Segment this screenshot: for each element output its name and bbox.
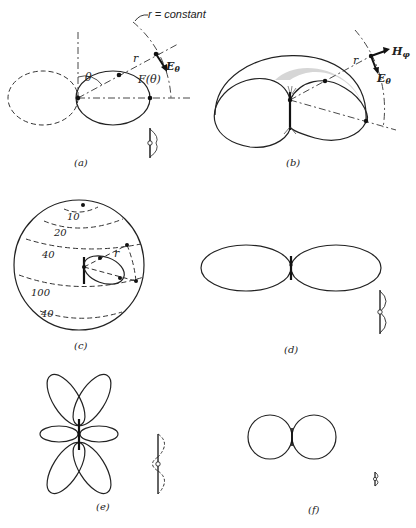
feed-dot-lower (289, 271, 292, 274)
contour-label-40-lower: 40 (40, 308, 54, 319)
pattern-point (323, 79, 327, 83)
origin-dot (76, 96, 81, 101)
contour-label-10: 10 (67, 211, 80, 222)
panel-a: r = constant r θ F(θ) Eθ (a) (8, 8, 207, 168)
petal-left (40, 426, 78, 442)
petal-lower-left (40, 437, 93, 500)
contour-label-20: 20 (53, 227, 67, 238)
h-phi-label: Hφ (391, 45, 410, 59)
antenna-radiation-pattern-figure: r = constant r θ F(θ) Eθ (a) (0, 0, 416, 528)
origin-dot (288, 98, 292, 102)
inner-lobe (80, 251, 128, 290)
contour-label-100: 100 (31, 287, 51, 298)
contour-40-upper (26, 239, 141, 249)
radius-line (78, 44, 178, 98)
r-label: r (353, 54, 359, 67)
petal-lower-right (66, 437, 119, 500)
pattern-point (117, 73, 122, 78)
sphere-point-lower (134, 279, 138, 283)
pattern-point-upper (98, 256, 102, 260)
shading (275, 68, 365, 115)
panel-c: r 10 20 40 100 40 (c) (14, 200, 144, 351)
petal-upper-right (66, 369, 119, 432)
meridian-arc (127, 245, 136, 281)
caption-f: (f) (308, 504, 320, 515)
contour-100 (19, 275, 144, 287)
feed-dot-upper (289, 263, 292, 266)
caption-d: (d) (284, 344, 298, 355)
e-theta-label: Eθ (376, 72, 391, 86)
left-lobe (248, 415, 292, 459)
caption-c: (c) (74, 340, 88, 351)
r-label: r (133, 52, 139, 65)
theta-label: θ (85, 71, 92, 84)
panel-d: (d) (201, 245, 386, 355)
radius-line-lower (290, 100, 396, 130)
e-theta-label: Eθ (165, 60, 180, 74)
right-lobe (292, 415, 336, 459)
f-theta-label: F(θ) (137, 73, 161, 86)
panel-e: (e) (40, 369, 165, 512)
right-lobe (290, 81, 368, 140)
caption-e: (e) (96, 501, 110, 512)
lobe-tip (148, 96, 153, 101)
left-lobe (201, 245, 291, 291)
panel-f: (f) (248, 415, 378, 515)
petal-upper-left (40, 369, 93, 432)
right-lobe (291, 245, 381, 291)
h-phi-arrow (371, 51, 385, 56)
caption-a: (a) (74, 157, 88, 168)
leader-line (135, 15, 148, 21)
panel-b: r Hφ Eθ (b) (214, 30, 410, 168)
caption-b: (b) (286, 157, 300, 168)
petal-right (80, 426, 118, 442)
sphere-point-upper (125, 243, 129, 247)
r-constant-label: r = constant (148, 8, 207, 20)
h-phi-arrowhead (383, 47, 390, 54)
left-lobe (214, 79, 290, 148)
pattern-point-lower (118, 276, 122, 280)
short-dipole-icon (373, 472, 378, 486)
current-distribution-icon (378, 290, 386, 334)
lobe-tip (364, 119, 368, 123)
origin-dot (82, 265, 86, 269)
current-distribution-icon (153, 434, 165, 494)
dashed-back-lobe (8, 71, 78, 125)
r-label: r (114, 247, 120, 260)
dipole-icon (148, 128, 157, 158)
contour-label-40-upper: 40 (41, 249, 55, 260)
pole-dot (81, 203, 85, 207)
